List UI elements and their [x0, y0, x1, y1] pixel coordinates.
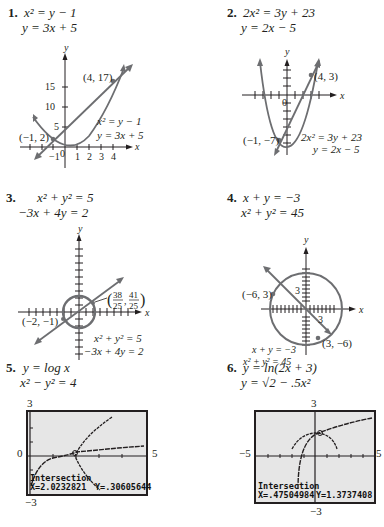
equation-2: y = 3x + 5 — [22, 20, 77, 35]
point-label: (3, −6) — [322, 337, 352, 350]
equation-1: x² + y² = 5 — [37, 190, 93, 205]
frac-yn: 41 — [129, 290, 138, 300]
point-label: (−6, 3) — [242, 288, 272, 301]
calculator-screen: Intersection X=.47504984 Y=1.3737408 — [254, 410, 376, 504]
graph-problem-4: y x 3 3 (−6, 3) (3, −6) x + y = −3 x² + … — [192, 230, 384, 360]
point-label: (4, 3) — [314, 70, 338, 83]
window-xmin: 0 — [17, 447, 23, 459]
problem-4: 4. x + y = −3 x² + y² = 45 — [227, 190, 304, 220]
y-axis-label: y — [303, 234, 309, 245]
equation-1: y = ln(2x + 3) — [243, 360, 317, 375]
equation-1: y = log x — [23, 360, 70, 375]
frac-yd: 25 — [129, 301, 139, 311]
frac-xd: 25 — [113, 301, 123, 311]
window-ymin: −3 — [25, 496, 37, 508]
x-readout: X=2.0232821 — [30, 483, 86, 492]
svg-text:,: , — [124, 295, 127, 306]
origin-label: 0 — [282, 97, 287, 108]
equation-1: x² = y − 1 — [24, 5, 76, 20]
y-tick-label: 3 — [295, 285, 300, 296]
y-tick-10: 10 — [45, 101, 55, 112]
problem-number: 5. — [6, 360, 16, 375]
point-label: (4, 17) — [83, 71, 113, 84]
point-label: (−1, 2) — [19, 131, 49, 144]
y-tick-15: 15 — [45, 81, 55, 92]
window-ymin: −3 — [310, 505, 322, 517]
y-axis-label: y — [63, 42, 69, 53]
equation-1: 2x² = 3y + 23 — [243, 5, 315, 20]
svg-text:(: ( — [107, 291, 112, 309]
problem-number: 1. — [8, 5, 18, 20]
legend-eq: y = 3x + 5 — [96, 129, 144, 141]
x-axis-label: x — [144, 307, 150, 318]
x-tick-0: 0 — [60, 148, 65, 159]
x-axis-label: x — [339, 90, 345, 101]
y-tick-5: 5 — [54, 121, 59, 132]
point-label: (−2, −1) — [22, 315, 59, 328]
window-xmax: 5 — [152, 447, 158, 459]
window-xmax: 5 — [376, 447, 382, 459]
legend-eq: x² = y − 1 — [96, 115, 141, 127]
x-tick-label: 3 — [318, 314, 323, 325]
window-ymax: 3 — [27, 397, 33, 409]
window-ymax: 3 — [311, 397, 317, 409]
frac-xn: 38 — [113, 290, 123, 300]
equation-2: y = 2x − 5 — [241, 20, 296, 35]
problem-2: 2. 2x² = 3y + 23 y = 2x − 5 — [227, 5, 315, 35]
y-axis-label: y — [284, 46, 290, 57]
graph-problem-2: y x 0 (4, 3) (−1, −7) 2x² = 3y + 23 y = … — [200, 40, 384, 190]
x-tick-2: 2 — [87, 151, 92, 162]
problem-1: 1. x² = y − 1 y = 3x + 5 — [8, 5, 77, 35]
problem-3: 3. x² + y² = 5 −3x + 4y = 2 — [6, 190, 93, 220]
calculator-screen: Intersection X=2.0232821 Y=.30605644 — [26, 410, 148, 496]
problem-5: 5. y = log x x² − y² = 4 — [6, 360, 76, 390]
problem-number: 4. — [227, 190, 237, 205]
legend-eq: x² + y² = 5 — [93, 332, 142, 344]
problem-number: 6. — [227, 360, 237, 375]
equation-2: −3x + 4y = 2 — [18, 205, 88, 220]
legend-eq: −3x + 4y = 2 — [84, 345, 144, 357]
x-tick-neg1: −1 — [49, 151, 60, 162]
equation-2: x² − y² = 4 — [20, 375, 76, 390]
problem-number: 3. — [6, 190, 16, 205]
svg-text:): ) — [140, 291, 145, 309]
graph-problem-3: y x ( 38 25 , 41 25 ) (−2, −1) x² + y² =… — [0, 225, 192, 365]
x-readout: X=.47504984 — [258, 491, 314, 500]
legend-eq: 2x² = 3y + 23 — [301, 131, 362, 143]
y-readout: Y=1.3737408 — [316, 491, 372, 500]
x-axis-label: x — [134, 141, 140, 152]
legend-eq: x + y = −3 — [251, 344, 296, 355]
point-label: (−1, −7) — [243, 134, 280, 147]
x-tick-4: 4 — [111, 151, 116, 162]
window-xmin: −5 — [239, 447, 251, 459]
equation-2: x² + y² = 45 — [241, 205, 304, 220]
equation-1: x + y = −3 — [243, 190, 300, 205]
graph-problem-1: y x 15 10 5 −1 0 1 2 3 4 (4, 17) (−1, 2)… — [0, 40, 190, 190]
legend-eq: y = 2x − 5 — [312, 143, 360, 155]
x-tick-3: 3 — [99, 151, 104, 162]
x-axis-label: x — [358, 304, 364, 315]
y-axis-label: y — [77, 223, 83, 234]
problem-6: 6. y = ln(2x + 3) y = √2 − .5x² — [227, 360, 317, 390]
equation-2: y = √2 − .5x² — [241, 375, 310, 390]
problem-number: 2. — [227, 5, 237, 20]
y-readout: Y=.30605644 — [95, 483, 151, 492]
x-tick-1: 1 — [75, 151, 80, 162]
